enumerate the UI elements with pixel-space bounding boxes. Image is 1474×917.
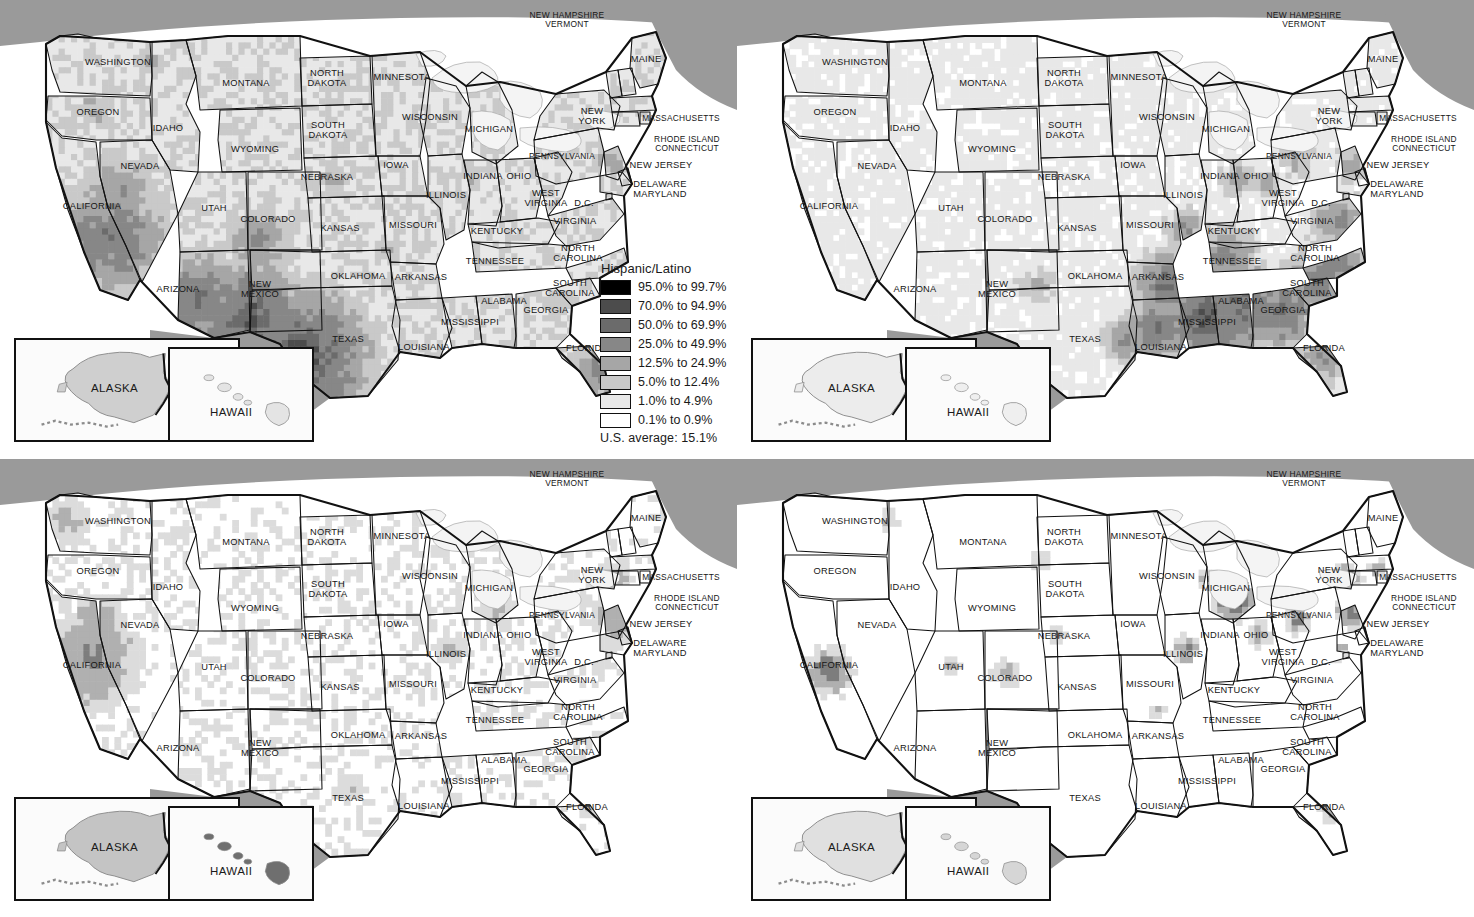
legend-swatch bbox=[600, 318, 631, 333]
map-panel-arab-american[interactable]: WASHINGTONOREGONIDAHOMONTANAWYOMINGNEVAD… bbox=[737, 459, 1474, 917]
legend-row[interactable]: 70.0% to 94.9% bbox=[600, 297, 726, 315]
alaska-inset-label: ALASKA bbox=[91, 382, 138, 394]
legend-row[interactable]: 12.5% to 24.9% bbox=[600, 354, 726, 372]
us-average-label: U.S. average: bbox=[600, 431, 678, 445]
legend-swatch bbox=[600, 337, 631, 352]
legend-swatch bbox=[600, 356, 631, 371]
legend-title: Hispanic/Latino bbox=[601, 262, 726, 275]
hawaii-map-svg bbox=[907, 808, 1049, 899]
map-canvas-arab-american: WASHINGTONOREGONIDAHOMONTANAWYOMINGNEVAD… bbox=[737, 459, 1474, 917]
map-panel-hispanic-latino[interactable]: WASHINGTONOREGONIDAHOMONTANAWYOMINGNEVAD… bbox=[0, 0, 737, 458]
hawaii-inset-label: HAWAII bbox=[947, 406, 989, 418]
map-panel-asian-american[interactable]: WASHINGTONOREGONIDAHOMONTANAWYOMINGNEVAD… bbox=[0, 459, 737, 917]
legend-row[interactable]: 95.0% to 99.7% bbox=[600, 278, 726, 296]
alaska-inset-label: ALASKA bbox=[828, 382, 875, 394]
legend-row[interactable]: 5.0% to 12.4% bbox=[600, 373, 726, 391]
hawaii-inset[interactable]: HAWAII bbox=[905, 347, 1051, 442]
map-canvas-african-american: WASHINGTONOREGONIDAHOMONTANAWYOMINGNEVAD… bbox=[737, 0, 1474, 458]
hawaii-map-svg bbox=[170, 349, 312, 440]
legend-swatch bbox=[600, 413, 631, 428]
legend-row[interactable]: 25.0% to 49.9% bbox=[600, 335, 726, 353]
us-average: U.S. average: 15.1% bbox=[600, 432, 726, 445]
legend-label: 1.0% to 4.9% bbox=[638, 395, 712, 408]
hawaii-inset[interactable]: HAWAII bbox=[168, 347, 314, 442]
hawaii-map-svg bbox=[170, 808, 312, 899]
alaska-inset-label: ALASKA bbox=[91, 841, 138, 853]
legend-label: 5.0% to 12.4% bbox=[638, 376, 719, 389]
legend-label: 70.0% to 94.9% bbox=[638, 300, 726, 313]
map-canvas-hispanic-latino: WASHINGTONOREGONIDAHOMONTANAWYOMINGNEVAD… bbox=[0, 0, 737, 458]
hawaii-inset-label: HAWAII bbox=[210, 406, 252, 418]
legend-label: 50.0% to 69.9% bbox=[638, 319, 726, 332]
legend-swatch bbox=[600, 375, 631, 390]
legend-row[interactable]: 50.0% to 69.9% bbox=[600, 316, 726, 334]
legend-label: 25.0% to 49.9% bbox=[638, 338, 726, 351]
legend-swatch bbox=[600, 394, 631, 409]
hawaii-inset[interactable]: HAWAII bbox=[905, 806, 1051, 901]
hawaii-map-svg bbox=[907, 349, 1049, 440]
us-average-value: 15.1% bbox=[681, 431, 717, 445]
hawaii-inset-label: HAWAII bbox=[947, 865, 989, 877]
map-figure-grid: WASHINGTONOREGONIDAHOMONTANAWYOMINGNEVAD… bbox=[0, 0, 1474, 917]
legend-label: 0.1% to 0.9% bbox=[638, 414, 712, 427]
map-panel-african-american[interactable]: WASHINGTONOREGONIDAHOMONTANAWYOMINGNEVAD… bbox=[737, 0, 1474, 458]
hawaii-inset[interactable]: HAWAII bbox=[168, 806, 314, 901]
legend-row[interactable]: 0.1% to 0.9% bbox=[600, 411, 726, 429]
legend-swatch bbox=[600, 280, 631, 295]
alaska-inset-label: ALASKA bbox=[828, 841, 875, 853]
legend-label: 95.0% to 99.7% bbox=[638, 281, 726, 294]
legend-swatch bbox=[600, 299, 631, 314]
map-canvas-asian-american: WASHINGTONOREGONIDAHOMONTANAWYOMINGNEVAD… bbox=[0, 459, 737, 917]
legend-label: 12.5% to 24.9% bbox=[638, 357, 726, 370]
legend-hispanic-latino: Hispanic/Latino95.0% to 99.7%70.0% to 94… bbox=[600, 262, 726, 445]
legend-row[interactable]: 1.0% to 4.9% bbox=[600, 392, 726, 410]
hawaii-inset-label: HAWAII bbox=[210, 865, 252, 877]
